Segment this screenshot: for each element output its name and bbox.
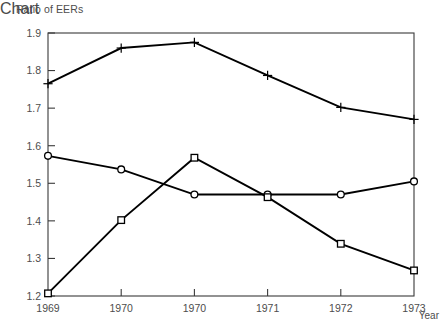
y-tick-label: 1.6 (26, 140, 41, 152)
data-series-group (43, 38, 418, 297)
y-axis-ticks: 1.21.31.41.51.61.71.81.9 (26, 27, 55, 302)
y-tick-label: 1.8 (26, 64, 41, 76)
x-tick-label: 1970 (110, 302, 134, 314)
y-tick-label: 1.5 (26, 177, 41, 189)
plot-frame (48, 33, 414, 296)
series-plus (43, 38, 418, 124)
line-chart-plot: 1.21.31.41.51.61.71.81.9 196919701970197… (0, 0, 447, 331)
x-tick-label: 1970 (183, 302, 207, 314)
y-tick-label: 1.9 (26, 27, 41, 39)
y-tick-label: 1.7 (26, 102, 41, 114)
series-square (45, 154, 418, 296)
y-tick-label: 1.3 (26, 252, 41, 264)
x-axis-ticks: 196919701970197119721973 (36, 289, 426, 314)
series-circle (45, 152, 418, 197)
x-axis-title: Year (419, 310, 439, 321)
y-tick-label: 1.4 (26, 215, 41, 227)
x-tick-label: 1972 (329, 302, 353, 314)
y-tick-label: 1.2 (26, 290, 41, 302)
x-tick-label: 1969 (36, 302, 60, 314)
x-tick-label: 1971 (256, 302, 280, 314)
chart-container: Ratio of EERs 1.21.31.41.51.61.71.81.9 1… (0, 0, 447, 331)
